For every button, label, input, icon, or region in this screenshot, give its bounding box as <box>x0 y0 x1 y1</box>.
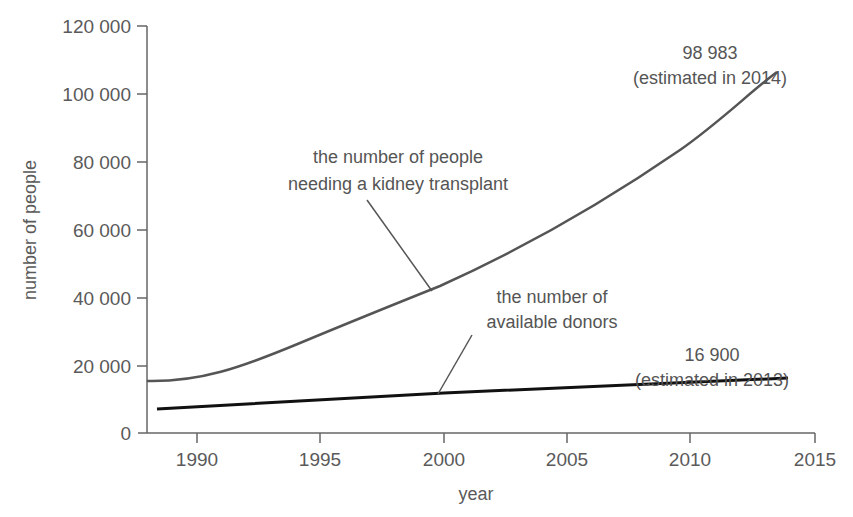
y-ticks <box>137 26 147 366</box>
y-tick-labels: 120 000 100 000 80 000 60 000 40 000 20 … <box>62 16 131 444</box>
x-tick-labels: 1990 1995 2000 2005 2010 2015 <box>176 449 836 470</box>
y-axis-title: number of people <box>20 160 40 300</box>
leader-line-donors <box>438 335 472 394</box>
annotation-donors-line1: the number of <box>496 287 608 307</box>
y-tick-label: 80 000 <box>73 152 131 173</box>
x-tick-label: 1990 <box>176 449 218 470</box>
annotation-need-value: 98 983 <box>682 43 737 63</box>
x-tick-label: 1995 <box>299 449 341 470</box>
annotation-need-note: (estimated in 2014) <box>633 68 787 88</box>
y-tick-label: 20 000 <box>73 356 131 377</box>
x-tick-label: 2000 <box>423 449 465 470</box>
leader-line-needing <box>367 200 432 291</box>
annotation-needing-line1: the number of people <box>313 147 483 167</box>
series-needing-transplant <box>147 72 777 381</box>
chart: 120 000 100 000 80 000 60 000 40 000 20 … <box>0 0 853 517</box>
x-tick-label: 2005 <box>546 449 588 470</box>
y-tick-label: 40 000 <box>73 288 131 309</box>
x-axis-title: year <box>458 484 493 504</box>
annotation-donor-value: 16 900 <box>684 345 739 365</box>
y-tick-label: 120 000 <box>62 16 131 37</box>
annotation-donor-note: (estimated in 2013) <box>635 370 789 390</box>
x-tick-label: 2010 <box>669 449 711 470</box>
y-tick-label: 100 000 <box>62 84 131 105</box>
y-tick-label: 60 000 <box>73 220 131 241</box>
y-tick-label: 0 <box>120 423 131 444</box>
annotation-donors-line2: available donors <box>486 312 617 332</box>
x-tick-label: 2015 <box>794 449 836 470</box>
annotation-needing-line2: needing a kidney transplant <box>288 174 508 194</box>
x-ticks <box>197 433 815 443</box>
